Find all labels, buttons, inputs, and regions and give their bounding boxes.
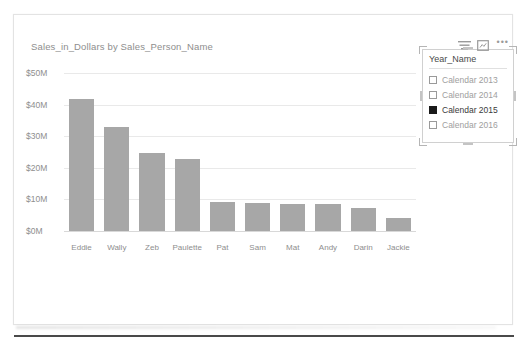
- x-axis-tick-label: Pat: [205, 243, 240, 252]
- checkbox-unchecked-icon[interactable]: [429, 76, 437, 84]
- x-axis-tick-label: Wally: [99, 243, 134, 252]
- bar[interactable]: [245, 203, 270, 231]
- slicer-item[interactable]: Calendar 2016: [429, 117, 509, 132]
- bar-chart-visual[interactable]: Sales_in_Dollars by Sales_Person_Name $0…: [26, 41, 416, 266]
- bar[interactable]: [139, 153, 164, 231]
- report-page-canvas[interactable]: Sales_in_Dollars by Sales_Person_Name $0…: [13, 14, 513, 325]
- bar-slot: [205, 73, 240, 231]
- page-bottom-rule: [14, 335, 514, 337]
- bar[interactable]: [210, 202, 235, 231]
- bar-slot: [381, 73, 416, 231]
- selection-handle-bottom-right[interactable]: [509, 138, 517, 146]
- selection-handle-top-right[interactable]: [509, 46, 517, 54]
- bar-slot: [240, 73, 275, 231]
- slicer-item-list[interactable]: Calendar 2013Calendar 2014Calendar 2015C…: [429, 72, 509, 132]
- x-axis-tick-label: Paulette: [170, 243, 205, 252]
- x-axis-tick-label: Jackie: [381, 243, 416, 252]
- selection-handle-bottom-left[interactable]: [419, 138, 427, 146]
- x-axis-tick-label: Mat: [275, 243, 310, 252]
- page-bottom-shadow: [16, 326, 496, 329]
- more-options-icon[interactable]: •••: [497, 37, 509, 48]
- bar-slot: [99, 73, 134, 231]
- y-axis-tick-label: $0M: [26, 226, 62, 236]
- slicer-item[interactable]: Calendar 2014: [429, 87, 509, 102]
- chart-title: Sales_in_Dollars by Sales_Person_Name: [31, 41, 213, 52]
- selection-handle-top[interactable]: [463, 47, 473, 49]
- bar-slot: [134, 73, 169, 231]
- plot-area[interactable]: [64, 73, 416, 231]
- y-axis-tick-label: $10M: [26, 194, 62, 204]
- bar-slot: [346, 73, 381, 231]
- selection-handle-left[interactable]: [420, 91, 422, 101]
- slicer-item-label: Calendar 2013: [442, 75, 498, 85]
- slicer-title: Year_Name: [429, 54, 476, 64]
- selection-handle-bottom[interactable]: [463, 143, 473, 145]
- x-axis-tick-label: Darin: [346, 243, 381, 252]
- slicer-item-label: Calendar 2014: [442, 90, 498, 100]
- selection-handle-top-left[interactable]: [419, 46, 427, 54]
- chart-plot-frame: $0M$10M$20M$30M$40M$50M: [26, 73, 416, 239]
- bar-slot: [64, 73, 99, 231]
- x-axis-tick-label: Zeb: [134, 243, 169, 252]
- bar[interactable]: [104, 127, 129, 231]
- bar[interactable]: [280, 204, 305, 231]
- x-axis: EddieWallyZebPaulettePatSamMatAndyDarinJ…: [64, 243, 416, 257]
- bar[interactable]: [386, 218, 411, 231]
- slicer-title-divider: [429, 68, 507, 69]
- bar-slot: [310, 73, 345, 231]
- year-name-slicer-visual[interactable]: ••• Year_Name Calendar 2013Calendar 2014…: [422, 49, 514, 143]
- y-axis-tick-label: $50M: [26, 68, 62, 78]
- checkbox-checked-icon[interactable]: [429, 106, 437, 114]
- bar[interactable]: [69, 99, 94, 231]
- slicer-item-label: Calendar 2015: [442, 105, 498, 115]
- filter-icon[interactable]: [458, 37, 471, 55]
- slicer-item[interactable]: Calendar 2013: [429, 72, 509, 87]
- bar[interactable]: [315, 204, 340, 231]
- checkbox-unchecked-icon[interactable]: [429, 91, 437, 99]
- x-axis-tick-label: Eddie: [64, 243, 99, 252]
- y-axis-tick-label: $40M: [26, 100, 62, 110]
- checkbox-unchecked-icon[interactable]: [429, 121, 437, 129]
- selection-handle-right[interactable]: [514, 91, 516, 101]
- bar[interactable]: [175, 159, 200, 231]
- y-axis-tick-label: $20M: [26, 163, 62, 173]
- axis-baseline: [64, 231, 416, 232]
- x-axis-tick-label: Sam: [240, 243, 275, 252]
- x-axis-tick-label: Andy: [310, 243, 345, 252]
- bar[interactable]: [351, 208, 376, 231]
- slicer-item[interactable]: Calendar 2015: [429, 102, 509, 117]
- bar-slot: [275, 73, 310, 231]
- bar-slot: [170, 73, 205, 231]
- focus-mode-icon[interactable]: [477, 37, 489, 55]
- slicer-item-label: Calendar 2016: [442, 120, 498, 130]
- y-axis-tick-label: $30M: [26, 131, 62, 141]
